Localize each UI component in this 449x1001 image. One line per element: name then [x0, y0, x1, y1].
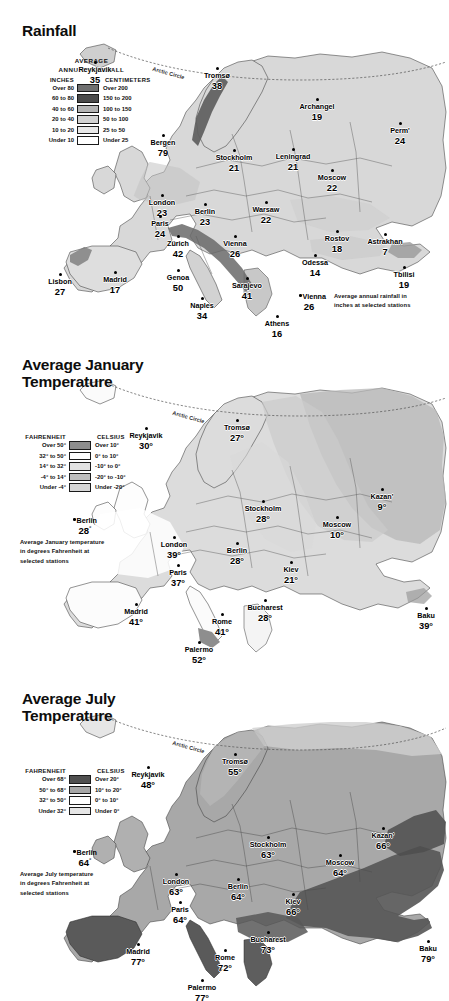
city-value: 9°	[358, 502, 406, 512]
city-name: Paris	[169, 568, 187, 577]
city-dot-icon	[236, 542, 239, 545]
city-dot-icon	[276, 315, 279, 318]
legend-row: 20 to 4050 to 100	[26, 114, 157, 125]
legend-range-left: 14° to 32°	[18, 463, 69, 469]
legend-row: 32° to 50°0° to 10°	[18, 451, 149, 462]
city-name: Lisbon	[48, 277, 72, 286]
legend-range-left: 32° to 50°	[18, 453, 69, 459]
legend-color-swatch	[69, 473, 91, 482]
city-value: 64°	[316, 868, 364, 878]
key-note-line2: in degrees Fahrenheit at	[20, 547, 150, 556]
title-line-2: Temperature	[22, 707, 116, 724]
legend-color-swatch	[69, 483, 91, 492]
city-dot-icon	[292, 148, 295, 151]
city-value: 37°	[154, 578, 202, 588]
city-dot-icon	[336, 230, 339, 233]
city-name: Vienna	[223, 239, 246, 248]
city-name: Tromsø	[204, 71, 230, 80]
city-name: Baku	[419, 944, 437, 953]
legend-color-swatch	[69, 441, 91, 450]
city-name: Tromsø	[224, 423, 250, 432]
city-name: Sarajevo	[232, 281, 262, 290]
page-title-january: Average January Temperature	[22, 356, 143, 391]
city-dot-icon	[175, 873, 178, 876]
july-key: Berlin 64° Average July temperature in d…	[20, 848, 150, 898]
city-value: 79	[139, 148, 187, 158]
city-name: Odessa	[302, 258, 328, 267]
city-dot-icon	[159, 215, 162, 218]
city-dot-icon	[201, 979, 204, 982]
city-name: Genoa	[167, 273, 189, 282]
legend-range-left: 20 to 40	[26, 116, 77, 122]
city-dot-icon	[177, 269, 180, 272]
city-name: Paris	[171, 905, 189, 914]
city-value: 28°	[213, 556, 261, 566]
city-value: 28°	[239, 514, 287, 524]
city-name: Reykjavik	[78, 65, 111, 74]
key-city-label: Berlin	[20, 848, 150, 857]
city-dot-icon	[59, 273, 62, 276]
legend-row: 60 to 80150 to 200	[26, 93, 157, 104]
january-key: Berlin 28° Average January temperature i…	[20, 516, 150, 566]
city-name: Palermo	[185, 645, 213, 654]
legend-range-left: Over 68°	[18, 776, 69, 782]
city-value: 21	[210, 163, 258, 173]
legend-range-left: Over 50°	[18, 442, 69, 448]
city-dot-icon	[336, 516, 339, 519]
legend-col-header-fahrenheit: FAHRENHEIT	[18, 768, 69, 774]
city-value: 19	[293, 112, 341, 122]
legend-range-right: -10° to 0°	[91, 463, 149, 469]
legend-rows-rainfall: Over 80Over 20060 to 80150 to 20040 to 6…	[26, 83, 157, 146]
city-value: 77°	[114, 957, 162, 967]
legend-color-swatch	[69, 462, 91, 471]
city-value: 63°	[152, 887, 200, 897]
city-name: Archangel	[299, 102, 334, 111]
legend-range-right: 0° to 10°	[91, 797, 149, 803]
legend-row: 10 to 2025 to 50	[26, 125, 157, 136]
legend-range-left: 50° to 68°	[18, 787, 69, 793]
city-name: Athens	[265, 319, 289, 328]
city-name: Kiev	[285, 897, 300, 906]
city-value: 35	[71, 75, 119, 85]
city-value: 77°	[178, 993, 226, 1001]
city-dot-icon	[216, 67, 219, 70]
city-value: 52°	[175, 655, 223, 665]
city-value: 27	[36, 287, 84, 297]
city-value: 73°	[244, 945, 292, 955]
city-dot-icon	[201, 297, 204, 300]
city-value: 63°	[244, 850, 292, 860]
city-dot-icon	[114, 271, 117, 274]
legend-color-swatch	[77, 115, 99, 124]
city-value: 38	[193, 81, 241, 91]
key-city-label: Berlin	[20, 516, 150, 525]
city-value: 30°	[122, 441, 170, 451]
city-dot-icon	[262, 500, 265, 503]
city-dot-icon	[173, 536, 176, 539]
key-city-value: 26	[292, 301, 326, 312]
legend-range-right: Under 0°	[91, 808, 149, 814]
city-name: Berlin	[228, 882, 248, 891]
city-dot-icon	[162, 134, 165, 137]
city-dot-icon	[339, 854, 342, 857]
city-name: London	[161, 540, 187, 549]
key-note-line1: Average July temperature	[20, 870, 150, 879]
city-value: 16	[253, 329, 301, 339]
city-value: 72°	[201, 963, 249, 973]
city-name: Kazan'	[372, 831, 395, 840]
city-dot-icon	[425, 607, 428, 610]
city-dot-icon	[267, 931, 270, 934]
city-dot-icon	[236, 419, 239, 422]
city-name: Moscow	[318, 173, 346, 182]
legend-color-swatch	[69, 807, 91, 816]
city-value: 34	[178, 311, 226, 321]
city-name: Tbilisi	[394, 270, 415, 279]
city-value: 22	[308, 183, 356, 193]
legend-range-right: Under -20°	[91, 484, 149, 490]
city-dot-icon	[246, 277, 249, 280]
city-dot-icon	[137, 943, 140, 946]
city-dot-icon	[233, 149, 236, 152]
city-name: Madrid	[124, 607, 148, 616]
legend-range-right: Over 200	[99, 85, 157, 91]
city-value: 48°	[124, 780, 172, 790]
city-name: Rome	[215, 953, 235, 962]
